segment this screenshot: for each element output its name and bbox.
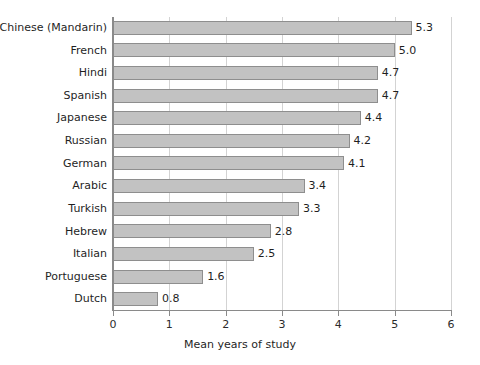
x-tick-2 xyxy=(226,311,227,316)
x-tick-label-3: 3 xyxy=(279,318,286,331)
bar-value-label: 4.2 xyxy=(354,133,372,148)
category-label: Turkish xyxy=(68,201,107,216)
bar-row: 0.8 xyxy=(113,288,451,311)
bar[interactable] xyxy=(113,21,412,35)
bar-value-label: 4.1 xyxy=(348,156,366,171)
bar[interactable] xyxy=(113,292,158,306)
bar-row: 4.7 xyxy=(113,85,451,108)
bar-row: 5.0 xyxy=(113,40,451,63)
category-label: Spanish xyxy=(64,88,107,103)
bar-row: 3.4 xyxy=(113,175,451,198)
bar[interactable] xyxy=(113,66,378,80)
bar[interactable] xyxy=(113,43,395,57)
category-label: Hebrew xyxy=(65,224,107,239)
x-tick-label-0: 0 xyxy=(110,318,117,331)
bar[interactable] xyxy=(113,111,361,125)
bar-value-label: 3.3 xyxy=(303,201,321,216)
x-tick-1 xyxy=(169,311,170,316)
bar-row: 4.2 xyxy=(113,130,451,153)
bar-value-label: 0.8 xyxy=(162,291,180,306)
bar-chart: 5.35.04.74.74.44.24.13.43.32.82.51.60.8 … xyxy=(0,0,480,365)
bar[interactable] xyxy=(113,270,203,284)
x-tick-6 xyxy=(451,311,452,316)
x-tick-4 xyxy=(338,311,339,316)
x-axis-title: Mean years of study xyxy=(0,338,480,351)
x-tick-3 xyxy=(282,311,283,316)
x-tick-0 xyxy=(113,311,114,316)
bar-row: 2.8 xyxy=(113,221,451,244)
bar-row: 5.3 xyxy=(113,17,451,40)
bar-value-label: 5.3 xyxy=(416,20,434,35)
bar[interactable] xyxy=(113,89,378,103)
bar-value-label: 2.8 xyxy=(275,224,293,239)
category-label: Hindi xyxy=(79,65,107,80)
category-label: German xyxy=(63,156,107,171)
bar-row: 3.3 xyxy=(113,198,451,221)
bar-value-label: 5.0 xyxy=(399,43,417,58)
x-tick-label-1: 1 xyxy=(166,318,173,331)
bar[interactable] xyxy=(113,202,299,216)
y-axis-line xyxy=(112,17,114,311)
x-tick-label-2: 2 xyxy=(222,318,229,331)
x-tick-label-4: 4 xyxy=(335,318,342,331)
bar-value-label: 4.7 xyxy=(382,88,400,103)
bar-value-label: 2.5 xyxy=(258,246,276,261)
bar-row: 2.5 xyxy=(113,243,451,266)
category-label: French xyxy=(70,43,107,58)
bar-value-label: 1.6 xyxy=(207,269,225,284)
bar-value-label: 4.7 xyxy=(382,65,400,80)
x-tick-5 xyxy=(395,311,396,316)
category-label: Russian xyxy=(65,133,107,148)
bar-value-label: 4.4 xyxy=(365,110,383,125)
x-tick-label-6: 6 xyxy=(448,318,455,331)
bar-row: 1.6 xyxy=(113,266,451,289)
bar-row: 4.1 xyxy=(113,153,451,176)
plot-area: 5.35.04.74.74.44.24.13.43.32.82.51.60.8 xyxy=(113,17,451,311)
category-label: Arabic xyxy=(72,178,107,193)
bar-row: 4.7 xyxy=(113,62,451,85)
x-tick-label-5: 5 xyxy=(391,318,398,331)
bar-value-label: 3.4 xyxy=(309,178,327,193)
category-label: Japanese xyxy=(57,110,107,125)
gridline-6 xyxy=(451,17,452,311)
bar-row: 4.4 xyxy=(113,107,451,130)
bar[interactable] xyxy=(113,156,344,170)
bar[interactable] xyxy=(113,224,271,238)
category-label: Dutch xyxy=(74,291,107,306)
bar[interactable] xyxy=(113,179,305,193)
category-label: Chinese (Mandarin) xyxy=(0,20,107,35)
y-axis-category-labels: Chinese (Mandarin)FrenchHindiSpanishJapa… xyxy=(0,17,107,311)
category-label: Italian xyxy=(73,246,107,261)
bar[interactable] xyxy=(113,134,350,148)
category-label: Portuguese xyxy=(45,269,107,284)
bar[interactable] xyxy=(113,247,254,261)
